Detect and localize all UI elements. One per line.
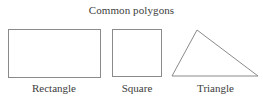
rectangle-label: Rectangle — [0, 82, 108, 95]
rectangle-shape — [9, 30, 101, 78]
square-shape — [113, 30, 162, 77]
square-label: Square — [108, 82, 166, 95]
triangle-label: Triangle — [168, 82, 263, 95]
triangle-shape — [172, 30, 258, 76]
polygon-figure: Common polygons Rectangle Square Triangl… — [0, 0, 263, 103]
